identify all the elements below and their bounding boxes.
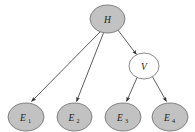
node-h[interactable]: H (90, 5, 125, 33)
node-e2[interactable]: E 2 (57, 103, 92, 131)
edge-h-to-v (118, 30, 137, 55)
edge-v-to-e3 (127, 77, 138, 102)
node-e3[interactable]: E 3 (105, 103, 141, 131)
node-e1-shape[interactable] (8, 103, 44, 131)
graph-svg: H V E 1 E 2 E 3 (0, 0, 195, 132)
node-e3-subscript: 3 (125, 117, 128, 124)
node-e1-subscript: 1 (28, 117, 31, 124)
node-e4-label: E (163, 113, 170, 123)
nodes-layer: H V E 1 E 2 E 3 (8, 5, 188, 131)
node-v[interactable]: V (129, 53, 159, 79)
edge-h-to-e2 (77, 33, 104, 102)
edge-v-to-e4 (152, 76, 167, 102)
node-e2-shape[interactable] (57, 103, 92, 131)
node-e4-subscript: 4 (172, 117, 175, 124)
node-e4[interactable]: E 4 (152, 103, 188, 131)
diagram-canvas: H V E 1 E 2 E 3 (0, 0, 195, 132)
node-e1-label: E (19, 113, 26, 123)
node-e3-shape[interactable] (105, 103, 141, 131)
node-e2-subscript: 2 (76, 117, 79, 124)
node-h-label: H (103, 15, 112, 25)
node-e1[interactable]: E 1 (8, 103, 44, 131)
node-e2-label: E (68, 113, 75, 123)
node-e3-label: E (116, 113, 123, 123)
node-e4-shape[interactable] (152, 103, 188, 131)
